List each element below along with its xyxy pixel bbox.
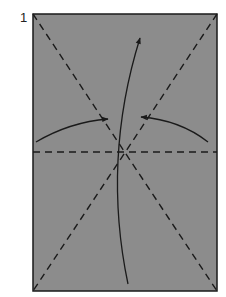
origami-diagram: [0, 0, 226, 297]
